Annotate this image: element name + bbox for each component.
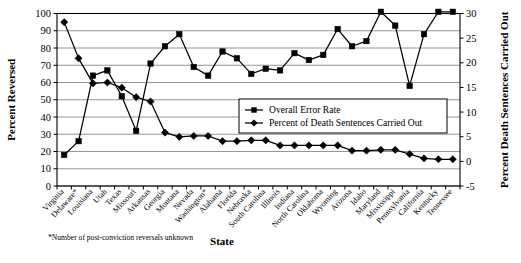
footnote: *Number of post-conviction reversals unk… [48, 233, 193, 242]
series-death-sentences-carried-out [61, 19, 457, 163]
x-axis-title: State [210, 235, 234, 247]
data-point-square [378, 9, 383, 14]
data-point-square [62, 152, 67, 157]
data-point-diamond [334, 142, 341, 149]
y-tick-label: 20 [41, 146, 52, 157]
data-point-square [450, 9, 455, 14]
data-point-square [277, 68, 282, 73]
x-tick-labels: VirginiaDelaware*LouisianaUtahTexasMisso… [41, 187, 455, 230]
data-point-diamond [262, 137, 269, 144]
y2-tick-label: 15 [466, 82, 477, 93]
y2-tick-label: 20 [466, 57, 477, 68]
data-point-diamond [118, 84, 125, 91]
data-point-diamond [75, 55, 82, 62]
dual-axis-line-chart: 0102030405060708090100-5051015202530Virg… [0, 0, 521, 263]
y-tick-label: 100 [35, 8, 51, 19]
data-point-diamond [205, 132, 212, 139]
y2-tick-label: 10 [466, 107, 477, 118]
data-point-diamond [248, 137, 255, 144]
y2-axis-title: Percent Death Sentences Carried Out [498, 11, 510, 188]
data-point-diamond [420, 155, 427, 162]
y-tick-label: 50 [41, 94, 52, 105]
data-point-diamond [348, 147, 355, 154]
data-point-square [321, 52, 326, 57]
data-point-diamond [320, 142, 327, 149]
legend-marker-square [251, 107, 256, 112]
data-point-diamond [392, 146, 399, 153]
legend: Overall Error RatePercent of Death Sente… [239, 99, 447, 133]
data-point-diamond [363, 147, 370, 154]
data-point-square [421, 32, 426, 37]
y-tick-label: 70 [41, 60, 52, 71]
data-point-square [263, 66, 268, 71]
data-point-diamond [61, 19, 68, 26]
data-point-square [249, 71, 254, 76]
data-point-diamond [190, 132, 197, 139]
data-point-diamond [449, 156, 456, 163]
data-point-diamond [291, 142, 298, 149]
chart-figure: 0102030405060708090100-5051015202530Virg… [0, 0, 521, 263]
data-point-square [162, 44, 167, 49]
data-point-square [407, 83, 412, 88]
data-point-square [133, 128, 138, 133]
y-axis-right: -5051015202530 [460, 8, 477, 192]
data-point-diamond [161, 129, 168, 136]
y-tick-label: 40 [41, 112, 52, 123]
y2-tick-label: 25 [466, 33, 477, 44]
data-point-square [105, 68, 110, 73]
y-tick-label: 80 [41, 43, 52, 54]
data-point-diamond [435, 156, 442, 163]
data-point-square [119, 94, 124, 99]
y2-tick-label: 30 [466, 8, 477, 19]
y-axis-title: Percent Reversed [5, 59, 17, 141]
y-tick-label: 90 [41, 25, 52, 36]
legend-item[interactable]: Percent of Death Sentences Carried Out [245, 117, 423, 128]
data-point-diamond [219, 138, 226, 145]
data-point-square [349, 44, 354, 49]
data-point-square [292, 50, 297, 55]
data-point-square [191, 64, 196, 69]
data-point-square [335, 26, 340, 31]
data-point-square [220, 49, 225, 54]
data-point-diamond [104, 79, 111, 86]
data-point-square [76, 138, 81, 143]
y2-tick-label: -5 [466, 181, 475, 192]
data-point-diamond [276, 142, 283, 149]
data-point-diamond [233, 138, 240, 145]
data-point-square [234, 56, 239, 61]
series-group [61, 9, 457, 163]
data-point-square [148, 61, 153, 66]
data-point-square [306, 57, 311, 62]
y-tick-label: 30 [41, 129, 52, 140]
legend-label: Overall Error Rate [269, 104, 340, 115]
y2-tick-label: 5 [466, 131, 471, 142]
y-tick-label: 10 [41, 163, 52, 174]
data-point-diamond [305, 142, 312, 149]
data-point-square [90, 73, 95, 78]
y-tick-label: 0 [46, 181, 51, 192]
data-point-diamond [377, 146, 384, 153]
data-point-square [393, 23, 398, 28]
data-point-square [205, 73, 210, 78]
data-point-square [177, 32, 182, 37]
y-axis-left: 0102030405060708090100 [35, 8, 57, 192]
y2-tick-label: 0 [466, 156, 471, 167]
legend-label: Percent of Death Sentences Carried Out [269, 117, 423, 128]
data-point-diamond [147, 98, 154, 105]
data-point-square [364, 38, 369, 43]
y-tick-label: 60 [41, 77, 52, 88]
data-point-square [436, 9, 441, 14]
series-overall-error-rate [62, 9, 456, 158]
